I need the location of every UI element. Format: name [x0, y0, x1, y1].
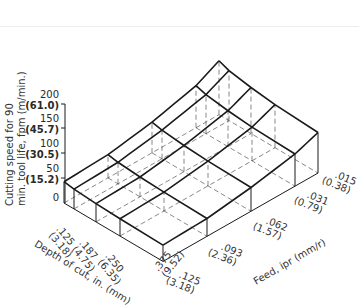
depth-curve	[64, 61, 219, 182]
y-tick-metric: (61.0)	[19, 100, 59, 111]
y-tick-metric: (45.7)	[19, 124, 59, 135]
y-tick-50: 50 (15.2)	[19, 163, 59, 185]
y-tick-0: 0	[19, 192, 59, 203]
y-tick-label: 100	[19, 138, 59, 149]
y-tick-metric: (15.2)	[19, 174, 59, 185]
feed-curve	[64, 182, 163, 245]
y-tick-metric: (30.5)	[19, 149, 59, 160]
y-tick-label: 200	[19, 89, 59, 100]
y-tick-label: 150	[19, 113, 59, 124]
y-axis-title-line1: Cutting speed for 90	[4, 71, 16, 206]
hidden-base-line	[64, 115, 219, 203]
y-tick-label: 50	[19, 163, 59, 174]
feed-curve	[196, 86, 295, 154]
y-tick-150: 150 (45.7)	[19, 113, 59, 135]
depth-curve	[163, 132, 318, 245]
y-tick-label: 0	[19, 192, 59, 203]
feed-curve	[219, 61, 318, 133]
depth-curve	[120, 105, 275, 219]
y-tick-100: 100 (30.5)	[19, 138, 59, 160]
y-tick-200: 200 (61.0)	[19, 89, 59, 111]
